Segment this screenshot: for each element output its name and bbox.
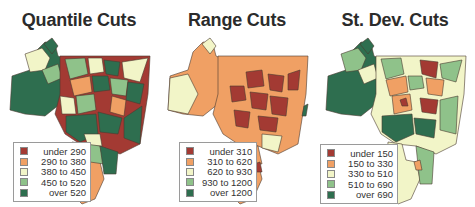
legend-swatch	[327, 160, 335, 168]
legend-swatch	[327, 191, 335, 199]
legend-item: 510 to 690	[327, 179, 393, 189]
legend-item: over 1200	[186, 188, 252, 198]
legend-item: 380 to 450	[20, 167, 86, 177]
legend-swatch	[327, 149, 335, 157]
legend-swatch	[186, 189, 194, 197]
legend-item: under 150	[327, 148, 393, 158]
legend-swatch	[186, 158, 194, 166]
legend-swatch	[327, 180, 335, 188]
map-title: St. Dev. Cuts	[316, 10, 474, 31]
map-title: Range Cuts	[158, 10, 316, 31]
legend-item: 930 to 1200	[186, 177, 252, 187]
map-legend: under 310 310 to 620 620 to 930 930 to 1…	[179, 142, 257, 202]
map-panel-stdev: St. Dev. Cuts under 150 150 to 33	[316, 0, 474, 207]
legend-item: 310 to 620	[186, 156, 252, 166]
legend-swatch	[20, 178, 28, 186]
legend-item: 290 to 380	[20, 156, 86, 166]
legend-item: 150 to 330	[327, 158, 393, 168]
legend-swatch	[186, 168, 194, 176]
legend-item: 450 to 520	[20, 177, 86, 187]
map-panel-range: Range Cuts under 310 310 to 620 620 to 9…	[158, 0, 316, 207]
legend-item: 330 to 510	[327, 169, 393, 179]
legend-swatch	[186, 147, 194, 155]
map-legend: under 290 290 to 380 380 to 450 450 to 5…	[13, 142, 91, 202]
legend-swatch	[20, 147, 28, 155]
legend-item: under 310	[186, 146, 252, 156]
legend-swatch	[327, 170, 335, 178]
map-legend: under 150 150 to 330 330 to 510 510 to 6…	[320, 144, 398, 204]
map-title: Quantile Cuts	[0, 10, 158, 31]
legend-swatch	[20, 189, 28, 197]
legend-item: 620 to 930	[186, 167, 252, 177]
map-panel-quantile: Quantile Cuts	[0, 0, 158, 207]
legend-item: over 690	[327, 190, 393, 200]
legend-item: under 290	[20, 146, 86, 156]
legend-item: over 520	[20, 188, 86, 198]
legend-swatch	[186, 178, 194, 186]
legend-swatch	[20, 158, 28, 166]
legend-swatch	[20, 168, 28, 176]
